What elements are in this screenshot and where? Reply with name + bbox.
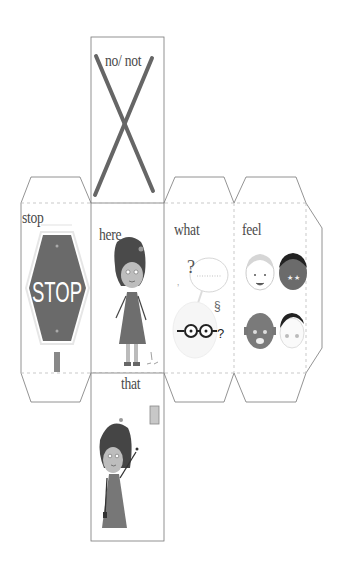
cube-net-outline: STOP [0, 0, 339, 571]
feel-bottom-tab [234, 373, 306, 402]
svg-text:§: § [214, 299, 221, 313]
svg-text:’: ’ [177, 283, 179, 294]
face-label-here: here [99, 226, 121, 244]
right-end-tab [306, 203, 322, 373]
thinking-face-icon: ? ’ § ? [173, 257, 228, 358]
emotion-faces-icon: ★ ★ [244, 253, 307, 349]
svg-text:★: ★ [294, 274, 300, 282]
pointed-object-icon [150, 406, 159, 424]
stop-sign-icon: STOP [26, 232, 89, 372]
what-bottom-tab [164, 373, 234, 402]
face-label-no-not: no/ not [105, 52, 141, 70]
svg-text:?: ? [217, 326, 224, 341]
feel-top-tab [234, 177, 306, 203]
stop-top-tab [21, 177, 91, 203]
what-top-tab [164, 177, 234, 203]
stop-bottom-tab [21, 373, 91, 402]
face-label-that: that [121, 375, 140, 393]
face-label-what: what [174, 221, 199, 239]
face-label-feel: feel [242, 221, 261, 239]
svg-text:★: ★ [287, 274, 293, 282]
svg-text:STOP: STOP [32, 275, 82, 308]
svg-text:?: ? [187, 257, 195, 277]
face-label-stop: stop [22, 209, 44, 227]
girl-standing-icon [114, 237, 158, 366]
cube-net: STOP [0, 0, 339, 571]
